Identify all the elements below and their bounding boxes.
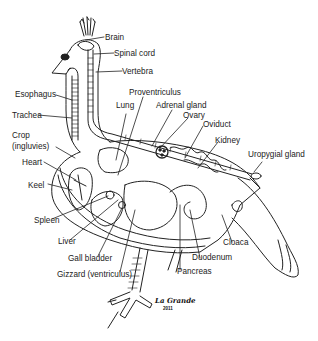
label-brain: Brain (105, 33, 124, 42)
label-vertebra: Vertebra (122, 67, 153, 76)
eye (61, 54, 69, 60)
signature-year: 2011 (163, 306, 173, 311)
label-spinal-cord: Spinal cord (114, 49, 155, 58)
label-crop-alt: (ingluvies) (12, 142, 49, 151)
label-kidney: Kidney (215, 136, 240, 145)
label-gizzard: Gizzard (ventriculus) (57, 270, 132, 279)
label-crop: Crop (12, 131, 30, 140)
label-proventriculus: Proventriculus (129, 88, 181, 97)
label-keel: Keel (28, 181, 44, 190)
label-heart: Heart (22, 158, 42, 167)
chicken-drawing (0, 0, 318, 341)
body-outline (52, 140, 260, 252)
head-crest (80, 17, 95, 36)
label-uropygial-gland: Uropygial gland (248, 150, 305, 159)
spleen (106, 191, 114, 199)
brain (78, 41, 94, 50)
lung (98, 148, 128, 173)
label-gall-bladder: Gall bladder (68, 254, 112, 263)
beak (52, 50, 70, 74)
label-liver: Liver (58, 237, 76, 246)
label-duodenum: Duodenum (192, 253, 232, 262)
uropygial-gland (251, 173, 261, 179)
label-pancreas: Pancreas (177, 267, 212, 276)
head-outline (70, 40, 110, 142)
intestines (170, 185, 206, 219)
label-esophagus: Esophagus (15, 90, 56, 99)
label-lung: Lung (116, 101, 134, 110)
label-ovary: Ovary (183, 111, 205, 120)
tail (232, 178, 298, 277)
cloaca (232, 201, 242, 212)
label-spleen: Spleen (34, 216, 60, 225)
label-oviduct: Oviduct (203, 120, 231, 129)
label-trachea: Trachea (12, 111, 42, 120)
anatomy-diagram: Brain Spinal cord Vertebra Esophagus Tra… (0, 0, 318, 341)
artist-signature: La Grande (155, 296, 196, 305)
label-cloaca: Cloaca (223, 238, 249, 247)
label-adrenal-gland: Adrenal gland (156, 101, 207, 110)
